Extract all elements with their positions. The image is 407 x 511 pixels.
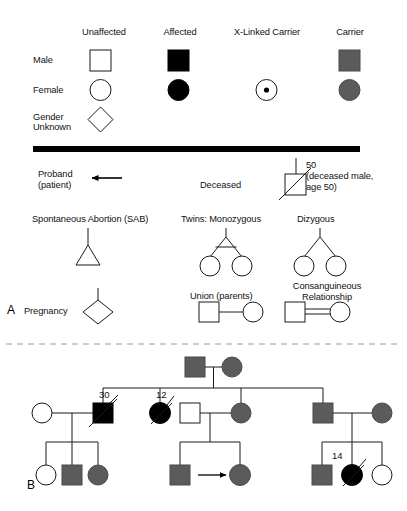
symbol-female-carrier <box>339 80 360 101</box>
sab-triangle <box>76 245 100 265</box>
ped-III-6-male-carrier <box>312 465 332 485</box>
dz-right-branch <box>320 237 336 257</box>
ped-II-4-male-unaffected <box>180 403 200 423</box>
ped-I-2-female-carrier <box>222 357 242 377</box>
section-divider-bar <box>33 146 360 152</box>
deceased-note-line1: (deceased male, <box>306 171 373 182</box>
ped-III-2-male-carrier <box>62 465 82 485</box>
ped-II-3-female-affected <box>150 403 171 424</box>
ped-III-5-female-carrier-proband <box>230 465 251 486</box>
deceased-square <box>285 174 306 195</box>
age-label-30: 30 <box>99 390 109 401</box>
ped-II-3-age-leader <box>167 396 174 405</box>
legend-header-xlinked-carrier: X-Linked Carrier <box>212 27 322 38</box>
ped-III-4-male-carrier <box>170 465 190 485</box>
symbol-male-carrier <box>339 50 360 71</box>
ped-II-1-female-unaffected <box>32 403 52 423</box>
legend-row-gender-unknown-line2: Unknown <box>33 122 71 133</box>
consanguineous-male <box>285 302 305 322</box>
dz-left-branch <box>304 237 320 257</box>
symbol-female-xlinked-carrier <box>256 80 277 101</box>
consanguineous-label-line2: Relationship <box>272 292 382 303</box>
ped-II-2-male-affected <box>93 403 113 423</box>
sab-label: Spontaneous Abortion (SAB) <box>32 214 148 225</box>
legend-row-female: Female <box>33 85 63 96</box>
union-female <box>243 302 263 322</box>
ped-III-8-female-unaffected <box>372 465 392 485</box>
union-male <box>199 302 219 322</box>
symbol-xlinked-center-dot <box>264 87 269 92</box>
age-label-14: 14 <box>332 451 342 462</box>
ped-II-3-deceased-slash <box>151 403 172 424</box>
ped-III-1-female-unaffected <box>36 465 56 485</box>
union-label: Union (parents) <box>190 291 253 302</box>
consanguineous-label-line1: Consanguineous <box>272 281 382 292</box>
mz-left-branch <box>210 237 226 257</box>
symbol-male-unaffected <box>90 50 111 71</box>
twins-monozygous-label: Twins: Monozygous <box>181 214 261 225</box>
ped-III-7-deceased-slash <box>343 465 364 486</box>
mz-right-branch <box>226 237 242 257</box>
ped-II-6-male-carrier <box>313 403 333 423</box>
deceased-label: Deceased <box>200 180 241 191</box>
proband-label-line2: (patient) <box>38 180 71 191</box>
age-label-12: 12 <box>156 390 166 401</box>
ped-I-1-male-carrier <box>185 357 205 377</box>
panel-letter-b: B <box>27 478 35 492</box>
twins-dizygous-label: Dizygous <box>297 214 334 225</box>
consanguineous-female <box>330 302 350 322</box>
panel-letter-a: A <box>7 303 15 317</box>
ped-III-7-female-affected <box>342 465 363 486</box>
ped-II-7-female-carrier <box>372 403 392 423</box>
legend-header-unaffected: Unaffected <box>64 27 144 38</box>
ped-II-2-deceased-slash <box>89 399 117 427</box>
mz-twin-left <box>200 256 220 276</box>
pregnancy-diamond <box>83 300 113 324</box>
symbol-female-affected <box>168 80 189 101</box>
symbol-female-unaffected <box>90 80 111 101</box>
dz-twin-right <box>326 256 346 276</box>
proband-label-line1: Proband <box>38 169 72 180</box>
deceased-note-line2: age 50) <box>306 182 337 193</box>
ped-II-2-age-leader <box>110 395 118 403</box>
ped-III-3-female-carrier <box>88 465 108 485</box>
legend-header-carrier: Carrier <box>312 27 388 38</box>
symbol-male-affected <box>168 50 189 71</box>
ped-III-7-age-leader <box>359 459 366 467</box>
pedigree-figure: Unaffected Affected X-Linked Carrier Car… <box>0 0 407 511</box>
deceased-age-label: 50 <box>306 160 316 171</box>
mz-twin-right <box>232 256 252 276</box>
legend-header-affected: Affected <box>140 27 220 38</box>
legend-row-male: Male <box>33 55 53 66</box>
dz-twin-left <box>294 256 314 276</box>
ped-II-5-female-carrier <box>231 403 251 423</box>
symbol-gender-unknown <box>88 107 113 132</box>
pedigree-graphics <box>0 0 407 511</box>
legend-row-gender-unknown-line1: Gender <box>33 112 63 123</box>
pregnancy-label: Pregnancy <box>24 306 68 317</box>
